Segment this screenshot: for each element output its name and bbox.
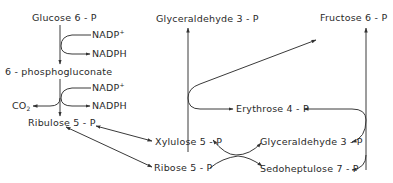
cofactor-nadp-2: NADP+ [92,83,125,93]
arrows-layer [0,0,393,183]
node-glyceraldehyde-3-p-top: Glyceraldehyde 3 - P [156,14,259,24]
subscript-2: 2 [27,105,31,112]
cofactor-nadp-2-text: NADP [92,82,119,93]
node-ribulose-5-p: Ribulose 5 - P [28,118,96,128]
cofactor-nadp-1: NADP+ [92,30,125,40]
node-glyceraldehyde-3-p-bottom: Glyceraldehyde 3 - P [260,137,363,147]
superscript-plus: + [119,81,124,88]
node-ribose-5-p: Ribose 5 - P [154,163,213,173]
arrow-transaldolase [188,28,316,152]
co2-text: CO [12,100,27,111]
pentose-phosphate-diagram: Glucose 6 - P NADP+ NADPH 6 - phosphoglu… [0,0,393,183]
arrow-ribulose-ribose [66,127,152,167]
node-glucose-6-p: Glucose 6 - P [32,13,97,23]
node-erythrose-4-p: Erythrose 4 - P [236,104,309,114]
node-fructose-6-p: Fructose 6 - P [320,13,387,23]
arrow-phosphogluconate-to-ribulose [33,79,91,116]
node-sedoheptulose-7-p: Sedoheptulose 7 - P [260,164,359,174]
cofactor-nadph-2: NADPH [92,101,127,111]
node-6-phosphogluconate: 6 - phosphogluconate [5,67,112,77]
cofactor-nadph-1: NADPH [92,49,127,59]
superscript-plus: + [119,28,124,35]
arrow-sedoheptulose-to-fructose [304,28,366,170]
byproduct-co2: CO2 [12,101,31,111]
arrow-glucose-to-phosphogluconate [60,25,91,64]
arrow-ribulose-xylulose [96,126,152,141]
node-xylulose-5-p: Xylulose 5 - P [155,137,222,147]
cofactor-nadp-1-text: NADP [92,29,119,40]
